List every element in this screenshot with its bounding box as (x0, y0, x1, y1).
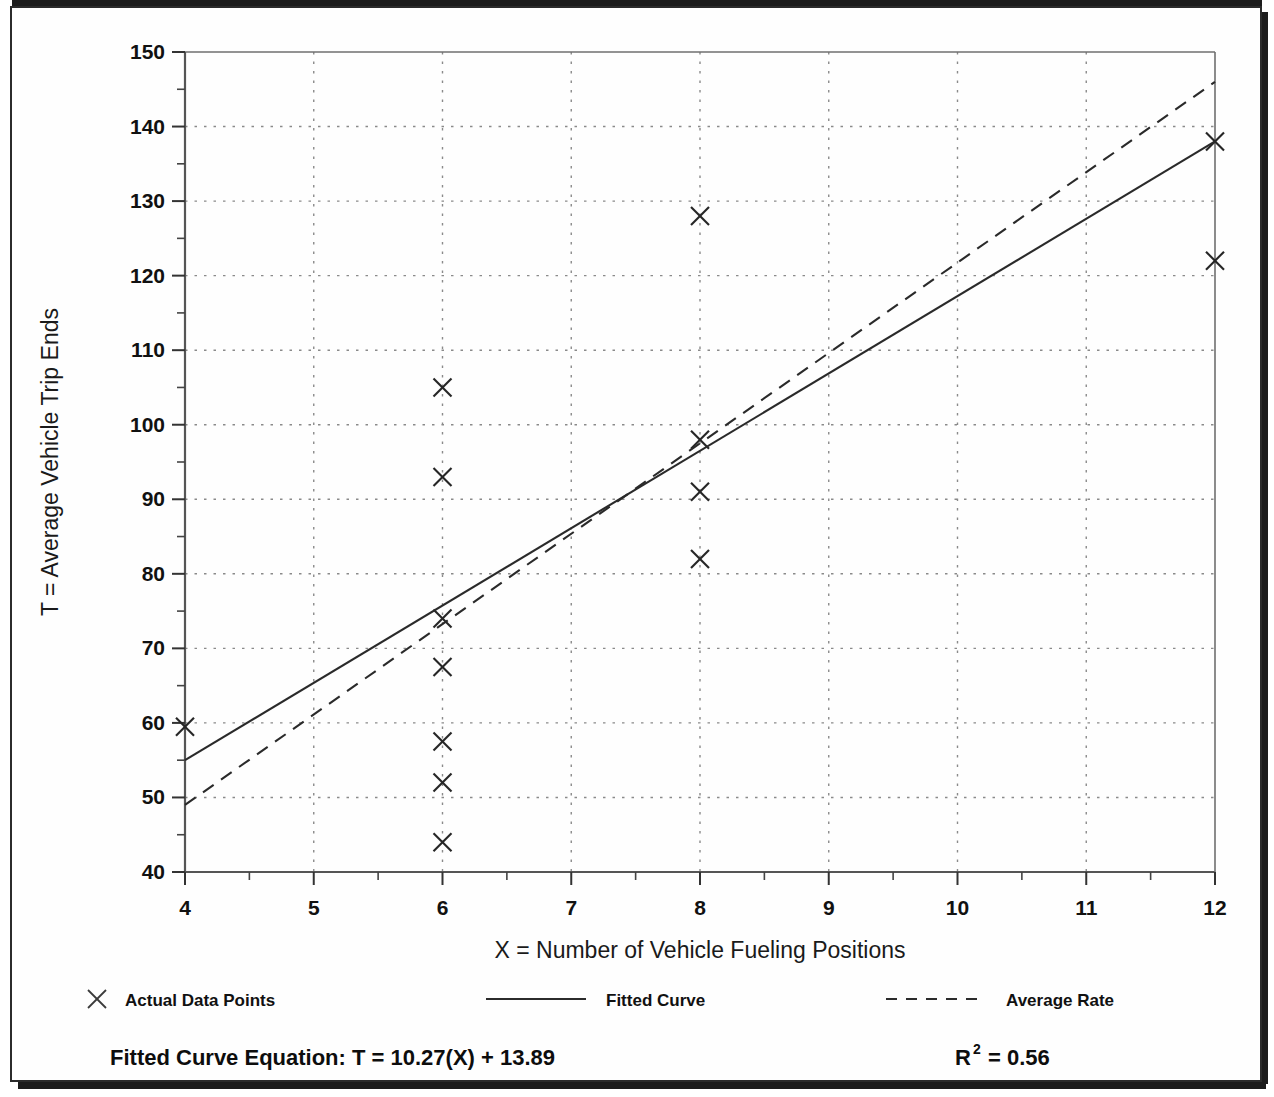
y-tick-label: 60 (142, 711, 165, 734)
r-squared-exponent: 2 (973, 1041, 981, 1057)
scatter-chart-figure: 4050607080901001101201301401504567891011… (0, 0, 1274, 1097)
x-axis-title: X = Number of Vehicle Fueling Positions (494, 937, 905, 963)
x-tick-label: 5 (308, 896, 320, 919)
r-squared-value: = 0.56 (988, 1045, 1050, 1070)
y-tick-label: 130 (130, 189, 165, 212)
y-axis-title: T = Average Vehicle Trip Ends (37, 308, 63, 616)
y-tick-label: 50 (142, 785, 165, 808)
r-squared-base: R (955, 1045, 971, 1070)
axis-ticks (172, 52, 1215, 885)
x-tick-label: 7 (565, 896, 577, 919)
y-tick-label: 120 (130, 264, 165, 287)
legend-label-average-rate: Average Rate (1006, 991, 1114, 1010)
chart-footer: Fitted Curve Equation: T = 10.27(X) + 13… (110, 1041, 1050, 1070)
data-series (176, 82, 1224, 851)
x-tick-label: 4 (179, 896, 191, 919)
data-point-marker (434, 833, 452, 851)
x-tick-label: 12 (1203, 896, 1226, 919)
y-tick-label: 100 (130, 413, 165, 436)
fitted-curve-equation: Fitted Curve Equation: T = 10.27(X) + 13… (110, 1045, 555, 1070)
legend-label-fitted-curve: Fitted Curve (606, 991, 705, 1010)
legend-x-marker-icon (88, 990, 106, 1008)
y-tick-label: 90 (142, 487, 165, 510)
axis-tick-labels: 4050607080901001101201301401504567891011… (130, 40, 1227, 919)
data-point-marker (434, 378, 452, 396)
y-tick-label: 150 (130, 40, 165, 63)
legend-label-actual-data-points: Actual Data Points (125, 991, 275, 1010)
chart-legend: Actual Data PointsFitted CurveAverage Ra… (88, 990, 1114, 1010)
x-tick-label: 6 (437, 896, 449, 919)
y-tick-label: 70 (142, 636, 165, 659)
y-tick-label: 40 (142, 860, 165, 883)
x-tick-label: 8 (694, 896, 706, 919)
y-tick-label: 80 (142, 562, 165, 585)
x-tick-label: 9 (823, 896, 835, 919)
data-point-marker (691, 207, 709, 225)
x-tick-label: 10 (946, 896, 969, 919)
data-point-marker (691, 483, 709, 501)
grid-lines (185, 52, 1215, 872)
y-tick-label: 140 (130, 115, 165, 138)
chart-canvas: 4050607080901001101201301401504567891011… (0, 0, 1274, 1097)
y-tick-label: 110 (131, 338, 165, 361)
x-tick-label: 11 (1075, 896, 1098, 919)
